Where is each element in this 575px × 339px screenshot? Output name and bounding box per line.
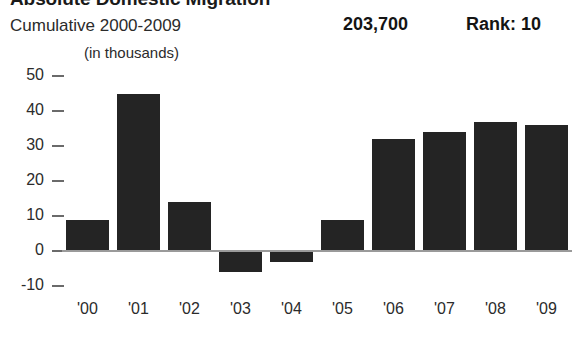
- x-axis-tick-label: '02: [165, 300, 215, 318]
- bar: [525, 125, 568, 251]
- y-axis-tick-label: 30: [0, 137, 44, 153]
- bar: [117, 94, 160, 252]
- y-axis-tick-label: 20: [0, 172, 44, 188]
- y-axis-tick-mark: [52, 145, 64, 147]
- x-axis-tick-label: '08: [471, 300, 521, 318]
- bar: [66, 220, 109, 252]
- y-axis-tick-mark: [52, 110, 64, 112]
- bar: [372, 139, 415, 251]
- y-axis-tick-label: 40: [0, 102, 44, 118]
- x-axis-tick-label: '00: [63, 300, 113, 318]
- x-axis-tick-label: '07: [420, 300, 470, 318]
- x-axis-tick-label: '05: [318, 300, 368, 318]
- x-axis-tick-label: '01: [114, 300, 164, 318]
- bar: [168, 202, 211, 251]
- bar: [474, 122, 517, 252]
- x-axis-tick-label: '09: [522, 300, 572, 318]
- x-axis-tick-label: '04: [267, 300, 317, 318]
- zero-baseline: [62, 250, 572, 252]
- y-axis-tick-label: 50: [0, 67, 44, 83]
- x-axis-tick-label: '06: [369, 300, 419, 318]
- y-axis-tick-label: -10: [0, 277, 44, 293]
- y-axis-tick-mark: [52, 180, 64, 182]
- y-axis-tick-mark: [52, 75, 64, 77]
- y-axis-tick-label: 0: [0, 242, 44, 258]
- bar: [270, 251, 313, 262]
- x-axis-tick-label: '03: [216, 300, 266, 318]
- bar-chart-plot: 50403020100-10 '00'01'02'03'04'05'06'07'…: [0, 0, 575, 339]
- y-axis-tick-label: 10: [0, 207, 44, 223]
- y-axis-tick-mark: [52, 215, 64, 217]
- bar: [219, 251, 262, 272]
- bar: [423, 132, 466, 251]
- bar: [321, 220, 364, 252]
- y-axis-tick-mark: [52, 285, 64, 287]
